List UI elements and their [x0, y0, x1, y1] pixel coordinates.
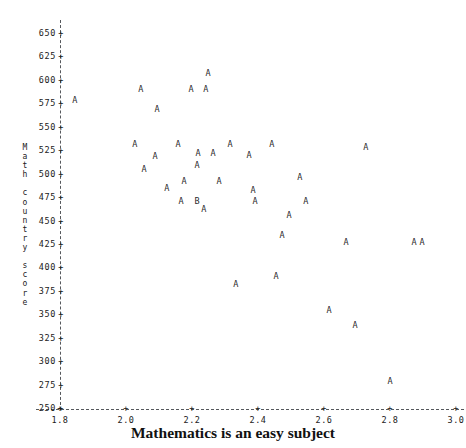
data-point-marker: A	[139, 165, 149, 174]
y-axis-tick-mark: +	[58, 74, 64, 86]
y-axis-tick-label: 650	[39, 27, 56, 39]
data-point-marker: A	[250, 197, 260, 206]
y-axis-tick-label: 575	[39, 97, 56, 109]
y-axis-tick-mark: +	[58, 379, 64, 391]
y-axis-tick-mark: +	[58, 168, 64, 180]
y-axis-tick: 525+	[0, 144, 66, 156]
y-axis-tick-mark: +	[58, 238, 64, 250]
data-point-marker: A	[248, 186, 258, 195]
y-axis-tick: 400+	[0, 261, 66, 273]
x-axis-title: Mathematics is an easy subject	[0, 424, 466, 442]
y-axis-tick-label: 350	[39, 308, 56, 320]
data-point-marker: A	[385, 377, 395, 386]
data-point-marker: A	[152, 105, 162, 114]
y-axis-tick-label: 600	[39, 74, 56, 86]
y-axis-tick-label: 375	[39, 285, 56, 297]
data-point-marker: A	[150, 152, 160, 161]
y-axis-tick: 450+	[0, 215, 66, 227]
x-axis-tick: +2.6	[304, 404, 344, 426]
x-axis-tick-mark: +	[370, 404, 410, 413]
x-axis-tick-mark: +	[172, 404, 212, 413]
y-axis-tick: 325+	[0, 332, 66, 344]
data-point-marker: A	[267, 140, 277, 149]
data-point-marker: A	[417, 238, 427, 247]
data-point-marker: A	[324, 306, 334, 315]
data-point-marker: A	[244, 151, 254, 160]
y-axis-tick-label: 625	[39, 50, 56, 62]
data-point-marker: A	[361, 143, 371, 152]
x-axis-tick: +1.8	[40, 404, 80, 426]
data-point-marker: A	[186, 85, 196, 94]
data-point-marker: A	[203, 69, 213, 78]
data-point-marker: A	[162, 184, 172, 193]
y-axis-tick: 575+	[0, 97, 66, 109]
y-axis-tick-label: 475	[39, 191, 56, 203]
x-axis-tick-mark: +	[40, 404, 80, 413]
x-axis-tick-mark: +	[436, 404, 466, 413]
y-axis-tick: 600+	[0, 74, 66, 86]
data-point-marker: A	[231, 280, 241, 289]
y-axis-tick-label: 500	[39, 168, 56, 180]
data-point-marker: A	[301, 197, 311, 206]
y-axis-tick-label: 300	[39, 355, 56, 367]
data-point-marker: A	[277, 231, 287, 240]
y-axis-tick-label: 550	[39, 121, 56, 133]
y-axis-tick: 550+	[0, 121, 66, 133]
data-point-marker: A	[130, 140, 140, 149]
y-axis-tick-label: 450	[39, 215, 56, 227]
data-point-marker: A	[201, 85, 211, 94]
data-point-marker: A	[214, 177, 224, 186]
y-axis-title: M a t h c o u n t r y s c o r e	[18, 143, 32, 307]
y-axis-tick-mark: +	[58, 27, 64, 39]
y-axis-tick-mark: +	[58, 191, 64, 203]
y-axis-tick-mark: +	[58, 285, 64, 297]
y-axis-tick-mark: +	[58, 355, 64, 367]
y-axis-tick: 375+	[0, 285, 66, 297]
data-point-marker: A	[136, 85, 146, 94]
data-point-marker: A	[225, 140, 235, 149]
y-axis-tick: 625+	[0, 50, 66, 62]
y-axis-tick-label: 525	[39, 144, 56, 156]
y-axis-tick-label: 275	[39, 379, 56, 391]
y-axis-tick: 425+	[0, 238, 66, 250]
y-axis-tick: 500+	[0, 168, 66, 180]
y-axis-tick: 350+	[0, 308, 66, 320]
data-point-marker: A	[192, 161, 202, 170]
data-point-marker: A	[199, 205, 209, 214]
x-axis-tick: +2.4	[238, 404, 278, 426]
x-axis-tick: +3.0	[436, 404, 466, 426]
y-axis-tick: 300+	[0, 355, 66, 367]
y-axis-tick: 275+	[0, 379, 66, 391]
y-axis-tick-mark: +	[58, 97, 64, 109]
data-point-marker: A	[341, 238, 351, 247]
data-point-marker: A	[176, 197, 186, 206]
data-point-marker: A	[179, 177, 189, 186]
x-axis-tick: +2.8	[370, 404, 410, 426]
x-axis-tick: +2.0	[106, 404, 146, 426]
data-point-marker: A	[173, 140, 183, 149]
data-point-marker: A	[271, 272, 281, 281]
y-axis-tick-mark: +	[58, 144, 64, 156]
data-point-marker: A	[70, 96, 80, 105]
y-axis-tick-label: 325	[39, 332, 56, 344]
y-axis-tick-mark: +	[58, 332, 64, 344]
scatter-plot: 650+625+600+575+550+525+500+475+450+425+…	[0, 0, 466, 448]
y-axis-tick-label: 425	[39, 238, 56, 250]
y-axis-tick: 475+	[0, 191, 66, 203]
x-axis-tick-mark: +	[238, 404, 278, 413]
data-point-marker: A	[193, 149, 203, 158]
x-axis-tick-mark: +	[304, 404, 344, 413]
x-axis-tick: +2.2	[172, 404, 212, 426]
y-axis-tick-mark: +	[58, 308, 64, 320]
data-point-marker: A	[350, 321, 360, 330]
data-point-marker: A	[284, 211, 294, 220]
data-point-marker: A	[208, 149, 218, 158]
x-axis-tick-mark: +	[106, 404, 146, 413]
y-axis-tick-mark: +	[58, 50, 64, 62]
y-axis-tick-mark: +	[58, 121, 64, 133]
data-point-marker: A	[295, 173, 305, 182]
y-axis-tick-mark: +	[58, 261, 64, 273]
y-axis-tick: 650+	[0, 27, 66, 39]
y-axis-tick-label: 400	[39, 261, 56, 273]
y-axis-tick-mark: +	[58, 215, 64, 227]
